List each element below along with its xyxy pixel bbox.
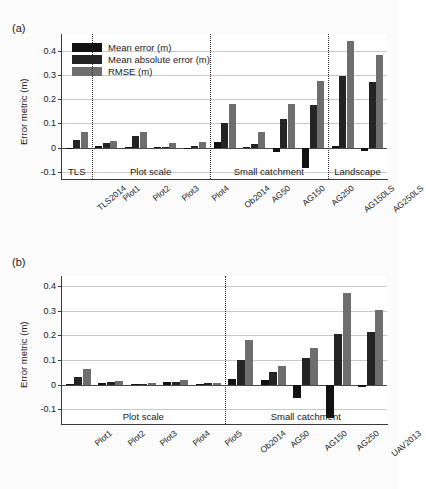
- panel-a-label: (a): [12, 22, 25, 34]
- bar-rmse-Plot4: [180, 380, 188, 384]
- group-separator: [328, 34, 329, 179]
- bar-rmse-Plot1: [83, 369, 91, 384]
- bar-mae-Plot4: [172, 382, 180, 385]
- bar-me-AG250LS: [361, 148, 368, 151]
- x-tick-label: AG250: [354, 428, 381, 453]
- y-tick-label: 0: [32, 380, 56, 390]
- bar-rmse-AG50: [258, 132, 265, 147]
- group-caption-small-catchment: Small catchment: [210, 166, 328, 177]
- zero-line: [62, 148, 387, 149]
- group-caption-landscape: Landscape: [328, 166, 387, 177]
- legend-swatch-me: [72, 43, 102, 52]
- x-tick-label: Plot1: [93, 428, 114, 448]
- bar-mae-Plot1: [74, 377, 82, 384]
- bar-me-Plot2: [98, 383, 106, 385]
- x-tick-label: AG250: [329, 183, 356, 208]
- bar-rmse-Plot3: [148, 383, 156, 385]
- bar-rmse-Plot4: [199, 142, 206, 148]
- bar-rmse-Plot2: [115, 381, 123, 384]
- y-axis-label-b: Error metric (m): [18, 322, 29, 389]
- legend-label-rmse: RMSE (m): [108, 66, 152, 77]
- bar-mae-UAV2013: [367, 332, 375, 385]
- legend-swatch-mae: [72, 55, 102, 64]
- x-tick-label: Plot2: [150, 183, 171, 203]
- group-separator: [225, 276, 226, 424]
- x-tick-label: Ob2014: [242, 183, 272, 210]
- bar-mae-Plot4: [191, 146, 198, 147]
- y-tick-label: 0.2: [32, 94, 56, 104]
- x-tick-label: Plot4: [190, 428, 211, 448]
- bar-mae-Plot2: [132, 136, 139, 147]
- bar-me-Plot3: [154, 147, 161, 148]
- y-tick-label: 0.3: [32, 306, 56, 316]
- bar-rmse-AG250: [317, 81, 324, 148]
- bar-me-Plot4: [163, 382, 171, 385]
- panel-b-label: (b): [12, 256, 25, 268]
- bar-rmse-AG150: [310, 348, 318, 385]
- bar-rmse-AG150LS: [347, 41, 354, 147]
- bar-mae-TLS2014: [73, 140, 80, 147]
- x-tick-label: Plot4: [209, 183, 230, 203]
- bar-me-Plot1: [95, 146, 102, 147]
- bar-rmse-AG150: [288, 104, 295, 148]
- bar-me-UAV2013: [358, 385, 366, 387]
- bar-rmse-AG250LS: [376, 55, 383, 148]
- y-tick-label: 0.2: [32, 330, 56, 340]
- bar-mae-Ob2014: [221, 123, 228, 147]
- bar-mae-AG250: [334, 334, 342, 385]
- bar-rmse-Plot1: [110, 141, 117, 148]
- group-caption-tls: TLS: [62, 166, 92, 177]
- x-tick-label: Plot5: [223, 428, 244, 448]
- bar-me-Ob2014: [228, 379, 236, 384]
- x-tick-label: Plot3: [180, 183, 201, 203]
- bar-mae-AG150LS: [339, 76, 346, 147]
- bar-rmse-Plot2: [140, 132, 147, 148]
- bar-rmse-Plot5: [213, 383, 221, 385]
- y-tick-label: -0.1: [32, 404, 56, 414]
- group-caption-plot-scale: Plot scale: [62, 411, 225, 422]
- bar-me-Plot1: [66, 384, 74, 385]
- y-tick-label: 0.1: [32, 355, 56, 365]
- x-tick-label: AG150: [300, 183, 327, 208]
- bar-me-AG50: [243, 147, 250, 148]
- x-tick-label: AG250LS: [391, 183, 426, 214]
- bar-me-AG50: [261, 380, 269, 385]
- bar-mae-Plot3: [139, 384, 147, 385]
- bar-me-Plot3: [131, 384, 139, 385]
- panel-a: (a) Error metric (m) Mean error (m)Mean …: [0, 0, 398, 244]
- bar-rmse-UAV2013: [375, 310, 383, 385]
- y-axis-label-a: Error metric (m): [18, 78, 29, 145]
- x-tick-label: UAV2013: [389, 428, 423, 459]
- bar-mae-AG150: [280, 119, 287, 148]
- bar-me-Plot2: [125, 147, 132, 148]
- x-tick-label: AG150LS: [361, 183, 396, 214]
- bar-rmse-AG50: [278, 366, 286, 385]
- bar-me-Ob2014: [214, 142, 221, 148]
- group-caption-plot-scale: Plot scale: [92, 166, 210, 177]
- bar-me-Plot5: [196, 384, 204, 385]
- bar-mae-AG250: [310, 105, 317, 148]
- group-separator: [210, 34, 211, 179]
- bar-me-AG150: [293, 385, 301, 398]
- y-tick-label: 0: [32, 143, 56, 153]
- bar-me-Plot4: [184, 148, 191, 149]
- y-tick-label: 0.1: [32, 118, 56, 128]
- group-separator: [92, 34, 93, 179]
- y-tick-label: 0.3: [32, 70, 56, 80]
- group-caption-small-catchment: Small catchment: [225, 411, 388, 422]
- x-tick-label: Ob2014: [258, 428, 288, 455]
- bar-mae-AG50: [269, 372, 277, 385]
- bar-mae-Plot2: [107, 382, 115, 384]
- x-tick-label: AG50: [269, 183, 292, 205]
- bar-rmse-AG250: [343, 293, 351, 385]
- bar-mae-Plot5: [204, 383, 212, 384]
- bar-mae-AG50: [251, 144, 258, 148]
- bar-rmse-Ob2014: [245, 340, 253, 385]
- x-tick-label: Plot3: [158, 428, 179, 448]
- y-axis-line: [61, 34, 62, 179]
- bar-rmse-Ob2014: [229, 104, 236, 148]
- legend-label-me: Mean error (m): [108, 42, 171, 53]
- x-tick-label: Plot2: [125, 428, 146, 448]
- legend-label-mae: Mean absolute error (m): [108, 54, 210, 65]
